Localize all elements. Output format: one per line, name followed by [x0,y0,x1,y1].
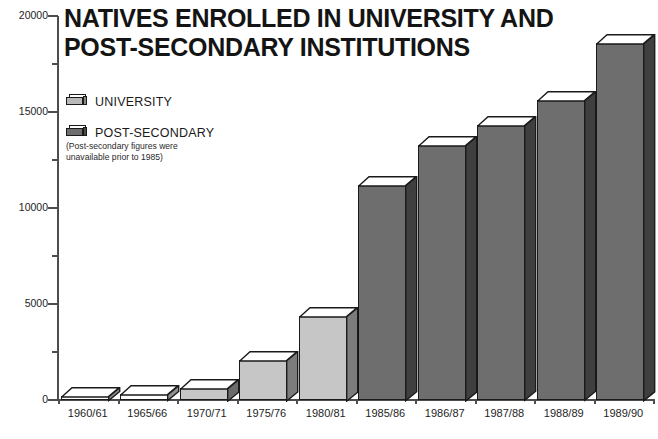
x-axis-tick [475,399,477,404]
bar-top-face-outline [596,34,655,45]
bar-1960-61 [61,387,120,400]
x-axis-tick-label: 1975/76 [236,407,296,419]
chart-root: NATIVES ENROLLED IN UNIVERSITY AND POST-… [0,0,658,439]
y-axis-tick-minor [52,351,58,353]
bar-1980-81 [299,307,358,400]
bar-front-face [596,43,644,400]
bar-front-face [299,316,347,400]
bar-top-face-outline [61,387,120,398]
x-axis-tick [177,399,179,404]
y-axis-tick-minor [52,63,58,65]
swatch-front-face [66,128,83,136]
x-axis-tick [296,399,298,404]
bar-top-face-outline [358,176,417,187]
x-axis-tick-label: 1988/89 [534,407,594,419]
bar-top-face-outline [418,136,477,147]
y-axis-tick-label: 20000 [4,9,48,21]
bar-top-face-outline [120,385,179,396]
y-axis-tick-label: 5000 [4,297,48,309]
x-axis-tick [237,399,239,404]
bar-1987-88 [477,116,536,400]
bar-top-face-outline [239,351,298,362]
x-axis-tick [118,399,120,404]
bar-side-face [524,116,537,402]
y-axis-tick-major [48,303,58,305]
bar-top-face-outline [180,379,239,390]
bar-top-face-outline [537,91,596,102]
x-axis-tick [653,399,655,404]
bar-side-face [465,136,478,402]
legend-item-post-secondary: POST-SECONDARY (Post-secondary figures w… [66,123,316,162]
bar-front-face [358,185,406,400]
bar-top-face-outline [299,307,358,318]
bar-side-face [584,91,597,402]
chart-legend: UNIVERSITY POST-SECONDARY (Post-secondar… [66,92,316,175]
x-axis-tick [356,399,358,404]
legend-label-post-secondary: POST-SECONDARY [95,126,214,140]
bar-1988-89 [537,91,596,400]
swatch-side-face [83,127,87,136]
bar-front-face [418,145,466,400]
x-axis-tick-label: 1970/71 [177,407,237,419]
x-axis-tick-label: 1985/86 [355,407,415,419]
bar-1989-90 [596,34,655,400]
x-axis-tick-label: 1987/88 [474,407,534,419]
bar-1970-71 [180,379,239,400]
y-axis-tick-major [48,399,58,401]
bar-front-face [537,100,585,400]
legend-footnote: (Post-secondary figures were unavailable… [66,141,316,162]
x-axis-tick [594,399,596,404]
plot-area: 05000100001500020000 1960/611965/661970/… [0,0,658,439]
y-axis-tick-label: 10000 [4,201,48,213]
x-axis-tick-label: 1965/66 [117,407,177,419]
bar-1986-87 [418,136,477,400]
x-axis-tick [534,399,536,404]
x-axis-tick-label: 1986/87 [415,407,475,419]
y-axis-tick-major [48,207,58,209]
bar-front-face [477,125,525,400]
x-axis-tick-label: 1980/81 [296,407,356,419]
y-axis-tick-major [48,111,58,113]
x-axis-tick-label: 1989/90 [593,407,653,419]
legend-footnote-line-2: unavailable prior to 1985) [66,152,316,163]
legend-label-university: UNIVERSITY [95,95,172,109]
y-axis-tick-minor [52,255,58,257]
swatch-side-face [83,96,87,105]
x-axis-tick-label: 1960/61 [58,407,118,419]
bar-side-face [346,307,359,402]
bar-1975-76 [239,351,298,400]
x-axis-tick [415,399,417,404]
y-axis-tick-label: 15000 [4,105,48,117]
bar-1985-86 [358,176,417,400]
bar-side-face [643,34,656,402]
bar-top-face-outline [477,116,536,127]
y-axis-tick-label: 0 [4,393,48,405]
y-axis-labels: 05000100001500020000 [0,0,48,439]
bar-1965-66 [120,385,179,400]
x-axis-tick [58,399,60,404]
bar-side-face [405,176,418,402]
university-swatch-icon [66,94,87,105]
y-axis-tick-minor [52,159,58,161]
legend-footnote-line-1: (Post-secondary figures were [66,141,316,152]
post-secondary-swatch-icon [66,125,87,136]
swatch-front-face [66,97,83,105]
bar-front-face [239,360,287,400]
legend-item-university: UNIVERSITY [66,92,316,110]
y-axis-tick-major [48,15,58,17]
